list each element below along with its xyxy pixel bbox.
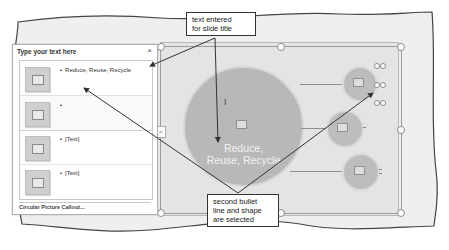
callout-text-line: are selected <box>213 215 273 224</box>
callout-second-bullet: second bullet line and shape are selecte… <box>207 194 279 227</box>
callout-text-line: second bullet <box>213 197 273 206</box>
callout-text-line: for slide title <box>192 24 250 33</box>
callout-text-line: line and shape <box>213 206 273 215</box>
callout-text-line: text entered <box>192 15 250 24</box>
callout-slide-title: text entered for slide title <box>186 12 256 36</box>
